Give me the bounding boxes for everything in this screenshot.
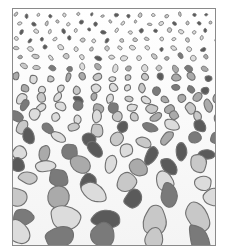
pebble (120, 56, 127, 61)
pebble (93, 73, 102, 80)
pebble (50, 169, 68, 186)
pebble (130, 112, 138, 121)
pebble (63, 13, 66, 17)
pebble (67, 22, 70, 25)
pebble (70, 156, 90, 174)
pebble (161, 183, 177, 208)
pebble (147, 23, 152, 25)
pebble (204, 54, 208, 59)
pebble (14, 12, 18, 16)
pebble (172, 84, 180, 90)
pebble (164, 57, 169, 61)
pebble (28, 39, 32, 43)
pebble (88, 28, 91, 31)
pebble (151, 54, 157, 59)
pebble (13, 146, 27, 160)
pebble (128, 31, 132, 34)
pebble (124, 85, 130, 91)
pebble (73, 101, 83, 111)
pebble (95, 56, 102, 61)
pebble (45, 21, 48, 26)
pebble (133, 38, 138, 42)
pebble (112, 111, 122, 121)
pebble (156, 65, 162, 71)
pebble (125, 66, 131, 71)
pebble (42, 123, 53, 134)
pebble (109, 20, 112, 23)
pebble (165, 119, 180, 130)
pebble (171, 46, 177, 50)
pebble (121, 21, 125, 25)
pebble (173, 65, 179, 72)
pebble (141, 96, 150, 104)
pebble (125, 96, 133, 102)
pebble (106, 94, 113, 103)
pebble (79, 20, 83, 24)
pebble (37, 92, 45, 102)
pebble (33, 65, 41, 69)
pebble (68, 123, 79, 131)
pebble (101, 30, 107, 34)
pebble (193, 13, 196, 16)
pebble (127, 104, 137, 111)
pebble (161, 132, 174, 145)
pebble (161, 96, 169, 103)
pebble (43, 45, 47, 49)
pebble (74, 29, 77, 33)
pebble (56, 20, 59, 23)
pebble (186, 38, 190, 42)
pebble (40, 37, 43, 41)
pebble (13, 157, 24, 171)
pebble (109, 55, 115, 59)
pebble (54, 92, 62, 101)
cropped-title (60, 0, 170, 3)
pebble (18, 55, 23, 58)
pebble (201, 87, 209, 94)
pebble (209, 21, 212, 24)
pebble (20, 30, 24, 35)
pebble (172, 74, 181, 81)
pebble (214, 113, 215, 123)
pebble (62, 29, 66, 34)
pebble (63, 53, 69, 59)
pebble (118, 46, 122, 50)
pebble (144, 37, 149, 40)
pebble (173, 22, 177, 26)
pebble (113, 64, 118, 72)
pebble (205, 76, 212, 82)
pebble (94, 22, 98, 26)
pebble (80, 38, 85, 42)
pebble (68, 36, 71, 40)
pebble (178, 94, 186, 102)
pebble (18, 172, 37, 184)
pebble (74, 47, 78, 52)
pebble (200, 35, 203, 40)
pebble (27, 47, 33, 52)
pebble (48, 29, 51, 33)
pebble (49, 14, 52, 17)
pebble (139, 83, 146, 93)
pebble (20, 63, 27, 69)
pebble (79, 72, 86, 80)
pebble (114, 13, 118, 16)
pebble (53, 37, 57, 40)
pebble (160, 47, 163, 51)
sediment-frame (12, 8, 216, 246)
pebble (136, 137, 151, 148)
pebble (193, 92, 202, 101)
pebble (154, 29, 158, 32)
pebble (134, 20, 136, 23)
pebble (58, 45, 64, 50)
pebble (91, 13, 93, 16)
pebble (185, 65, 193, 72)
pebble (194, 176, 211, 190)
pebble (91, 93, 97, 101)
pebble (172, 38, 176, 41)
pebble (137, 56, 142, 61)
pebble (101, 15, 105, 17)
pebble (45, 227, 73, 245)
pebble (201, 66, 208, 71)
pebble (37, 13, 40, 16)
pebble (139, 28, 143, 33)
pebble (52, 113, 60, 122)
